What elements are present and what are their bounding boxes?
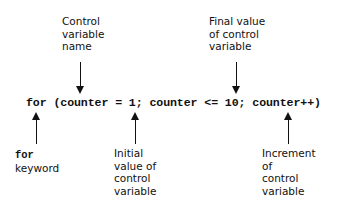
label-line: variable <box>62 28 104 41</box>
for-statement-code: for (counter = 1; counter <= 10; counter… <box>26 96 321 109</box>
label-line: Final value <box>209 15 265 28</box>
label-line: Increment <box>262 147 316 160</box>
label-line: value of <box>114 160 156 173</box>
label-line: name <box>62 40 104 53</box>
keyword-for: for <box>15 149 59 162</box>
label-for-keyword: for keyword <box>15 149 59 174</box>
label-line: control <box>114 172 156 185</box>
label-line: of control <box>209 28 265 41</box>
label-line: keyword <box>15 162 59 175</box>
label-line: variable <box>209 40 265 53</box>
label-line: of <box>262 160 316 173</box>
label-line: Initial <box>114 147 156 160</box>
label-line: variable <box>114 185 156 198</box>
label-line: control <box>262 172 316 185</box>
label-line: variable <box>262 185 316 198</box>
label-initial-value: Initial value of control variable <box>114 147 156 197</box>
label-final-value: Final value of control variable <box>209 15 265 53</box>
label-increment: Increment of control variable <box>262 147 316 197</box>
label-control-variable-name: Control variable name <box>62 15 104 53</box>
label-line: Control <box>62 15 104 28</box>
